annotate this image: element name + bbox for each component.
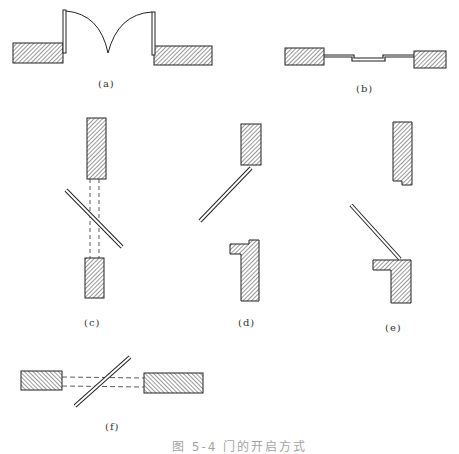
panel-a xyxy=(13,10,212,65)
panel-e xyxy=(351,122,412,303)
label-a: (a) xyxy=(98,78,115,89)
panel-b xyxy=(285,48,446,68)
label-f: (f) xyxy=(105,421,120,432)
label-d: (d) xyxy=(238,317,255,328)
label-c: (c) xyxy=(84,317,100,328)
label-b: (b) xyxy=(356,83,373,94)
panel-f xyxy=(21,357,203,406)
panel-d xyxy=(200,124,261,301)
figure-caption: 图 5-4 门的开启方式 xyxy=(172,437,307,454)
label-e: (e) xyxy=(385,322,402,333)
panel-c xyxy=(66,118,122,298)
